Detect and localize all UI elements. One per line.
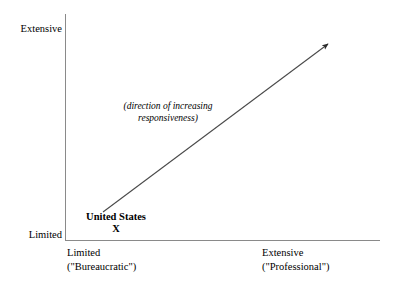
y-axis-label-limited: Limited (29, 229, 62, 241)
x-axis-label-limited: Limited ("Bureaucratic") (67, 246, 136, 274)
y-axis-line (65, 14, 66, 241)
x-axis-label-limited-sub: ("Bureaucratic") (67, 260, 136, 274)
x-axis-label-extensive-main: Extensive (262, 247, 303, 258)
data-point-united-states: United States X (70, 211, 162, 235)
direction-arrow-icon (0, 0, 393, 285)
direction-annotation-line1: (direction of increasing (120, 100, 216, 112)
data-point-label: United States (86, 211, 146, 222)
x-axis-label-limited-main: Limited (67, 247, 100, 258)
x-axis-line (65, 240, 380, 241)
diagram-canvas: Extensive Limited Limited ("Bureaucratic… (0, 0, 393, 285)
direction-annotation: (direction of increasing responsiveness) (120, 100, 216, 124)
direction-annotation-line2: responsiveness) (120, 112, 216, 124)
x-axis-label-extensive-sub: ("Professional") (262, 260, 329, 274)
y-axis-label-extensive: Extensive (21, 23, 62, 35)
data-point-marker-x: X (70, 223, 162, 235)
x-axis-label-extensive: Extensive ("Professional") (262, 246, 329, 274)
